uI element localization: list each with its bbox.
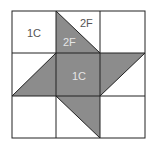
label-center: 1C (72, 70, 86, 82)
label-top-middle-lower: 2F (63, 36, 76, 48)
quilt-diagram: 1C 2F 2F 1C (0, 0, 155, 143)
label-top-left: 1C (27, 27, 41, 39)
label-top-middle-upper: 2F (80, 17, 93, 29)
